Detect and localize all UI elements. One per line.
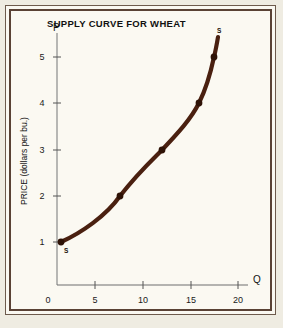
supply-curve-line bbox=[61, 37, 218, 242]
data-point-1 bbox=[58, 239, 65, 246]
data-point-4 bbox=[196, 100, 203, 107]
curve-label-upper: S bbox=[217, 27, 222, 34]
x-axis-letter: Q bbox=[253, 274, 261, 285]
data-point-3 bbox=[159, 147, 166, 154]
x-tick-label-10: 10 bbox=[138, 295, 148, 305]
data-point-5 bbox=[211, 54, 218, 61]
x-tick-label-5: 5 bbox=[92, 295, 97, 305]
y-tick-label-3: 3 bbox=[39, 145, 44, 155]
y-tick-label-2: 2 bbox=[39, 191, 44, 201]
x-tick-label-20: 20 bbox=[233, 295, 243, 305]
supply-curve-plot: P Q 5 4 3 2 1 0 5 10 15 20 bbox=[11, 11, 270, 309]
chart-plate: SUPPLY CURVE FOR WHEAT P Q 5 4 3 2 1 bbox=[11, 11, 270, 309]
y-tick-label-5: 5 bbox=[39, 52, 44, 62]
y-tick-label-4: 4 bbox=[39, 98, 44, 108]
x-tick-label-15: 15 bbox=[186, 295, 196, 305]
x-tick-label-0: 0 bbox=[45, 295, 50, 305]
y-axis-title: PRICE (dollars per bu.) bbox=[19, 117, 29, 205]
curve-label-lower: S bbox=[64, 247, 69, 254]
data-point-2 bbox=[117, 193, 124, 200]
y-axis-letter: P bbox=[53, 22, 60, 33]
y-tick-label-1: 1 bbox=[39, 237, 44, 247]
figure-container: SUPPLY CURVE FOR WHEAT P Q 5 4 3 2 1 bbox=[0, 0, 283, 328]
